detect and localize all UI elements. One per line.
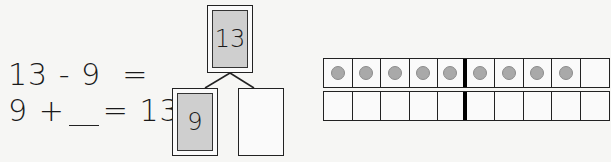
ten-frame-cell (495, 92, 524, 120)
ten-frame-cell (581, 92, 610, 120)
ten-frame-cell (438, 92, 467, 120)
ten-frame-cell (438, 59, 467, 87)
ten-frame-cell (467, 59, 496, 87)
ten-frame-cell (324, 59, 353, 87)
ten-frame-row-1 (323, 58, 610, 88)
ten-frame-cell (495, 59, 524, 87)
counter-dot-icon (559, 66, 573, 80)
counter-dot-icon (530, 66, 544, 80)
ten-frame-cell (552, 59, 581, 87)
counter-dot-icon (359, 66, 373, 80)
counter-dot-icon (473, 66, 487, 80)
ten-frame-cell (381, 59, 410, 87)
whole-value: 13 (212, 10, 248, 68)
ten-frame-cell (581, 59, 610, 87)
counter-dot-icon (502, 66, 516, 80)
counter-dot-icon (416, 66, 430, 80)
ten-frame-cell (410, 92, 439, 120)
ten-frame-row-2 (323, 91, 610, 121)
number-bond-part-2[interactable] (238, 88, 284, 156)
counter-dot-icon (388, 66, 402, 80)
number-bond-part-1: 9 (172, 88, 218, 156)
ten-frame-cell (353, 59, 382, 87)
ten-frame-cell (524, 59, 553, 87)
ten-frame-cell (410, 59, 439, 87)
counter-dot-icon (331, 66, 345, 80)
ten-frame-cell (552, 92, 581, 120)
ten-frame-cell (467, 92, 496, 120)
ten-frame-cell (353, 92, 382, 120)
number-bond-whole: 13 (207, 5, 253, 73)
ten-frame-cell (324, 92, 353, 120)
ten-frame-cell (381, 92, 410, 120)
part-1-value: 9 (177, 93, 213, 151)
counter-dot-icon (443, 66, 457, 80)
ten-frame-cell (524, 92, 553, 120)
